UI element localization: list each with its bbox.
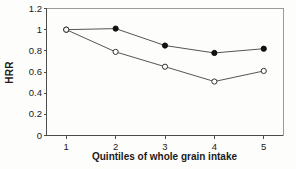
chart-figure: HRR 00.20.40.60.811.2 12345 Quintiles of… bbox=[0, 0, 296, 169]
data-point-open bbox=[162, 64, 167, 69]
series-2 bbox=[64, 27, 267, 84]
data-point-open bbox=[64, 27, 69, 32]
tick-marks-group bbox=[44, 9, 264, 139]
series-line-1 bbox=[66, 29, 264, 53]
axes-group bbox=[47, 9, 284, 136]
data-point-open bbox=[113, 49, 118, 54]
data-point-filled bbox=[162, 43, 167, 48]
data-point-open bbox=[212, 79, 217, 84]
series-1 bbox=[64, 26, 267, 56]
data-point-filled bbox=[261, 46, 266, 51]
series-line-2 bbox=[66, 30, 264, 82]
x-axis-title: Quintiles of whole grain intake bbox=[46, 151, 283, 162]
data-point-open bbox=[261, 68, 266, 73]
data-series-group bbox=[64, 26, 267, 84]
data-point-filled bbox=[212, 50, 217, 55]
plot-area bbox=[0, 0, 296, 169]
data-point-filled bbox=[113, 26, 118, 31]
